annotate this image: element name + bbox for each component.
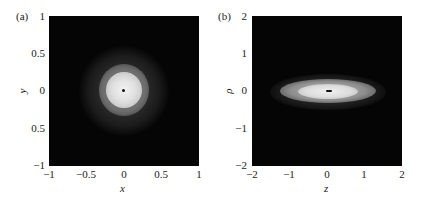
panel-b-heatmap <box>252 16 402 166</box>
xtick: 1 <box>184 169 214 180</box>
panel-a-heatmap <box>49 16 199 166</box>
center-dot <box>122 89 125 92</box>
xtick: 0 <box>109 169 139 180</box>
ytick: 1 <box>15 11 45 22</box>
xtick: −0.5 <box>71 169 101 180</box>
xtick: 0 <box>312 169 342 180</box>
ytick: 1 <box>217 48 247 59</box>
xtick: −1 <box>274 169 304 180</box>
xtick: 0.5 <box>146 169 176 180</box>
center-mark <box>326 90 332 92</box>
y-axis-label: ρ <box>222 88 234 93</box>
x-axis-label: x <box>120 182 125 194</box>
ytick: 0.5 <box>15 123 45 134</box>
xtick: −2 <box>237 169 267 180</box>
xtick: 2 <box>387 169 417 180</box>
y-axis-label: y <box>16 89 28 94</box>
xtick: −1 <box>34 169 64 180</box>
ytick: −1 <box>217 123 247 134</box>
ytick: 0.5 <box>15 48 45 59</box>
xtick: 1 <box>349 169 379 180</box>
ytick: 2 <box>217 11 247 22</box>
x-axis-label: z <box>324 182 328 194</box>
